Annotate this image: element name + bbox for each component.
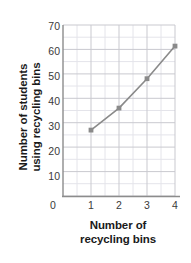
- data-point-4[interactable]: [173, 44, 178, 49]
- x-axis-tick-labels: 1 2 3 4: [0, 200, 191, 214]
- x-tick-2: 2: [109, 200, 129, 211]
- chart-container: Number of students using recycling bins …: [0, 0, 191, 263]
- data-point-3[interactable]: [145, 76, 150, 81]
- x-tick-1: 1: [81, 200, 101, 211]
- data-point-1[interactable]: [89, 128, 94, 133]
- x-tick-4: 4: [165, 200, 185, 211]
- x-axis-title-line-2: recycling bins: [45, 233, 191, 247]
- x-axis-title: Number of recycling bins: [45, 219, 191, 246]
- data-point-2[interactable]: [117, 106, 122, 111]
- x-axis-title-line-1: Number of: [45, 219, 191, 233]
- x-tick-3: 3: [137, 200, 157, 211]
